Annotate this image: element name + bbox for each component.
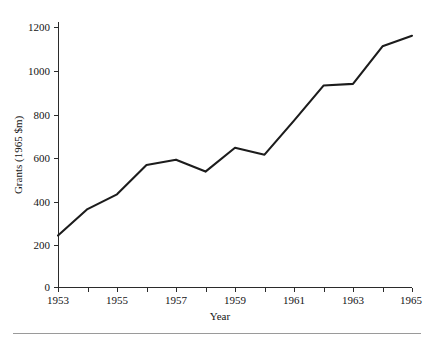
data-series-grants <box>58 36 412 236</box>
y-tick-label-600: 600 <box>34 152 51 164</box>
x-tick-label-1953: 1953 <box>47 294 70 306</box>
y-tick-label-1000: 1000 <box>28 65 51 77</box>
y-tick-marks <box>54 28 58 288</box>
axes-group <box>58 22 412 288</box>
y-tick-label-0: 0 <box>45 281 51 293</box>
y-axis-title: Grants (1965 $m) <box>12 116 25 195</box>
x-tick-label-1957: 1957 <box>165 294 188 306</box>
y-tick-label-1200: 1200 <box>28 21 51 33</box>
x-tick-label-1959: 1959 <box>224 294 247 306</box>
x-tick-label-1955: 1955 <box>106 294 129 306</box>
y-tick-labels: 1200 1000 800 600 400 200 0 <box>28 21 51 293</box>
x-tick-label-1963: 1963 <box>342 294 365 306</box>
y-tick-label-400: 400 <box>34 196 51 208</box>
figure-container: 1200 1000 800 600 400 200 0 1953 <box>0 0 434 347</box>
x-tick-labels: 1953 1955 1957 1959 1961 1963 1965 <box>47 294 423 306</box>
x-tick-label-1961: 1961 <box>283 294 305 306</box>
y-tick-label-200: 200 <box>34 239 51 251</box>
y-tick-label-800: 800 <box>34 109 51 121</box>
x-tick-marks <box>59 288 413 292</box>
line-chart: 1200 1000 800 600 400 200 0 1953 <box>0 0 434 347</box>
x-axis-title: Year <box>210 310 231 322</box>
x-tick-label-1965: 1965 <box>400 294 423 306</box>
